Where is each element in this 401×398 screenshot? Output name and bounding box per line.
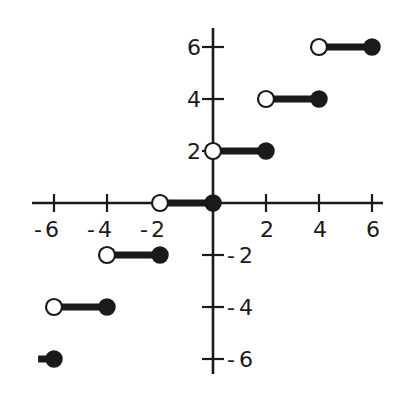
closed-endpoint-marker — [205, 195, 221, 211]
y-tick-label: -4 — [227, 295, 257, 320]
closed-endpoint-marker — [311, 91, 327, 107]
closed-endpoint-marker — [152, 247, 168, 263]
open-endpoint-marker — [152, 195, 168, 211]
x-tick-label: 4 — [313, 217, 327, 242]
open-endpoint-marker — [258, 91, 274, 107]
y-tick-label: 4 — [187, 87, 201, 112]
open-endpoint-marker — [205, 143, 221, 159]
open-endpoint-marker — [99, 247, 115, 263]
y-tick-label: 6 — [187, 35, 201, 60]
y-tick-label: -2 — [227, 243, 257, 268]
y-tick-label: -6 — [227, 347, 257, 372]
closed-endpoint-marker — [258, 143, 274, 159]
closed-endpoint-marker — [46, 351, 62, 367]
closed-endpoint-marker — [99, 299, 115, 315]
x-tick-label: -2 — [140, 217, 168, 242]
x-tick-labels: -6-4-2246 — [34, 217, 380, 242]
x-tick-label: -4 — [87, 217, 115, 242]
x-tick-label: -6 — [34, 217, 62, 242]
step-function-chart: -6-4-2246 642-2-4-6 — [0, 0, 401, 398]
y-tick-label: 2 — [187, 139, 201, 164]
open-endpoint-marker — [311, 39, 327, 55]
x-tick-label: 2 — [260, 217, 274, 242]
open-endpoint-marker — [46, 299, 62, 315]
x-tick-label: 6 — [366, 217, 380, 242]
closed-endpoint-marker — [364, 39, 380, 55]
